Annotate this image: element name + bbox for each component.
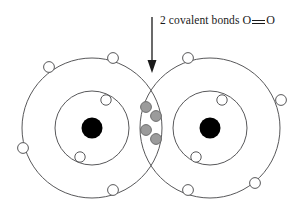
annotation-layer: 2 covalent bonds OO [0, 0, 302, 212]
atom-symbol-right: O [266, 13, 275, 27]
atom-symbol-left: O [243, 13, 252, 27]
double-bond-glyph [252, 16, 265, 27]
callout-label-text: 2 covalent bonds [160, 14, 240, 26]
diagram-canvas: 2 covalent bonds OO [0, 0, 302, 212]
callout-label: 2 covalent bonds OO [160, 13, 275, 27]
